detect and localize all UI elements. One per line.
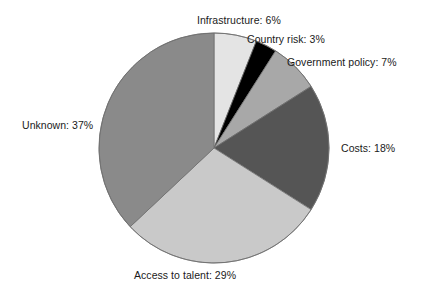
pie-label-costs: Costs: 18% <box>341 142 395 154</box>
pie-label-access-to-talent: Access to talent: 29% <box>134 269 236 281</box>
pie-chart: Infrastructure: 6% Country risk: 3% Gove… <box>0 0 430 289</box>
pie-label-country-risk: Country risk: 3% <box>247 33 325 45</box>
pie-label-government-policy: Government policy: 7% <box>287 56 397 68</box>
pie-label-infrastructure: Infrastructure: 6% <box>197 14 281 26</box>
pie-label-unknown: Unknown: 37% <box>22 119 93 131</box>
